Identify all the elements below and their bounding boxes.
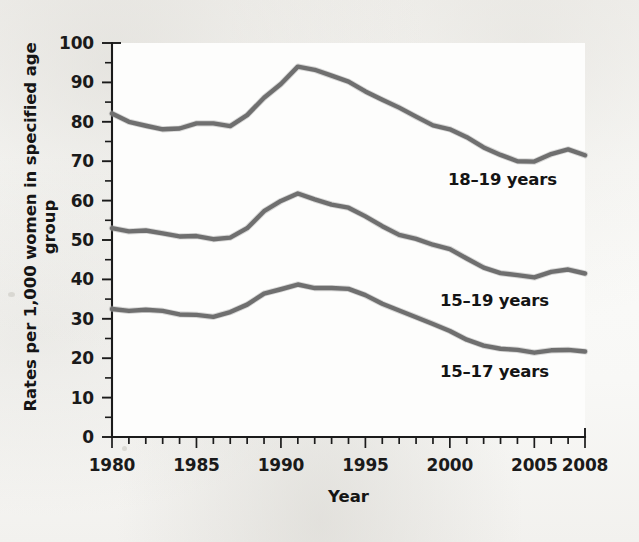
series-line-15-19-years <box>112 194 585 278</box>
y-axis-tick-label: 20 <box>54 348 94 368</box>
y-axis-tick-label: 10 <box>54 388 94 408</box>
y-axis-tick-label: 30 <box>54 309 94 329</box>
y-axis-tick-label: 40 <box>54 269 94 289</box>
y-axis-tick-label: 100 <box>54 33 94 53</box>
x-axis-tick-label: 2008 <box>555 455 615 475</box>
y-axis-tick-label: 80 <box>54 112 94 132</box>
x-axis-tick-label: 1990 <box>251 455 311 475</box>
series-label-15-19-years: 15–19 years <box>440 291 549 310</box>
y-axis-tick-label: 90 <box>54 72 94 92</box>
series-line-18-19-years <box>112 67 585 162</box>
x-axis-tick-label: 1985 <box>166 455 226 475</box>
x-axis-tick-label: 2000 <box>420 455 480 475</box>
y-axis-tick-label: 60 <box>54 191 94 211</box>
y-axis-tick-label: 70 <box>54 151 94 171</box>
y-axis-tick-label: 0 <box>54 427 94 447</box>
x-axis-title: Year <box>112 487 585 506</box>
series-label-15-17-years: 15–17 years <box>440 362 549 381</box>
series-label-18-19-years: 18–19 years <box>448 170 557 189</box>
x-axis-tick-label: 1995 <box>335 455 395 475</box>
x-axis-tick-label: 1980 <box>82 455 142 475</box>
y-axis-tick-label: 50 <box>54 230 94 250</box>
